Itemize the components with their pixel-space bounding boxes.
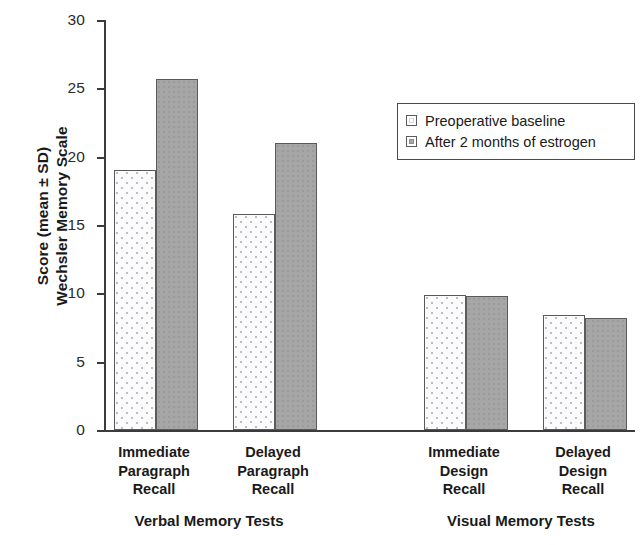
x-category-label-line-1: Immediate [428, 443, 500, 462]
bar-delayed-design-estrogen [585, 318, 627, 430]
x-category-label-immediate-paragraph-recall: Immediate Paragraph Recall [118, 443, 190, 499]
bar-delayed-paragraph-estrogen [275, 143, 317, 430]
x-group-label-verbal-memory-tests: Verbal Memory Tests [135, 512, 284, 529]
y-tick-label-15: 15 [39, 217, 85, 233]
x-category-label-line-3: Recall [555, 480, 611, 499]
y-axis-title-line-1: Score (mean ± SD) [33, 147, 52, 286]
x-category-label-line-3: Recall [428, 480, 500, 499]
x-category-label-line-2: Paragraph [237, 462, 309, 481]
legend: Preoperative baseline After 2 months of … [397, 103, 635, 160]
x-group-label-visual-memory-tests: Visual Memory Tests [447, 512, 595, 529]
x-category-label-line-2: Paragraph [118, 462, 190, 481]
bar-chart-figure: Score (mean ± SD) Wechsler Memory Scale … [0, 0, 642, 545]
x-category-label-line-3: Recall [237, 480, 309, 499]
x-category-label-immediate-design-recall: Immediate Design Recall [428, 443, 500, 499]
y-tick-label-10: 10 [39, 286, 85, 302]
x-category-label-delayed-design-recall: Delayed Design Recall [555, 443, 611, 499]
y-tick-0 [97, 430, 106, 432]
bar-immediate-design-estrogen [466, 296, 508, 430]
x-category-label-line-1: Immediate [118, 443, 190, 462]
y-tick-10 [97, 293, 106, 295]
y-tick-5 [97, 362, 106, 364]
legend-item-baseline: Preoperative baseline [406, 110, 626, 131]
legend-swatch-estrogen-icon [406, 136, 417, 147]
x-category-label-line-1: Delayed [555, 443, 611, 462]
y-tick-label-20: 20 [39, 149, 85, 165]
x-category-label-delayed-paragraph-recall: Delayed Paragraph Recall [237, 443, 309, 499]
y-tick-label-30: 30 [39, 12, 85, 28]
bar-delayed-paragraph-baseline [233, 214, 275, 430]
x-category-label-line-3: Recall [118, 480, 190, 499]
legend-item-estrogen: After 2 months of estrogen [406, 131, 626, 152]
x-category-label-line-1: Delayed [237, 443, 309, 462]
y-tick-30 [97, 20, 106, 22]
y-tick-label-0: 0 [39, 422, 85, 438]
legend-label-baseline: Preoperative baseline [425, 113, 565, 129]
legend-swatch-baseline-icon [406, 115, 417, 126]
bar-immediate-paragraph-baseline [114, 170, 156, 430]
x-category-label-line-2: Design [428, 462, 500, 481]
y-tick-label-25: 25 [39, 81, 85, 97]
plot-area: 30 25 20 15 10 5 0 [104, 20, 635, 432]
y-tick-15 [97, 225, 106, 227]
y-tick-20 [97, 157, 106, 159]
x-category-label-line-2: Design [555, 462, 611, 481]
bar-immediate-paragraph-estrogen [156, 79, 198, 430]
bar-immediate-design-baseline [424, 295, 466, 430]
legend-label-estrogen: After 2 months of estrogen [425, 134, 596, 150]
y-tick-25 [97, 88, 106, 90]
bar-delayed-design-baseline [543, 315, 585, 430]
y-tick-label-5: 5 [39, 354, 85, 370]
